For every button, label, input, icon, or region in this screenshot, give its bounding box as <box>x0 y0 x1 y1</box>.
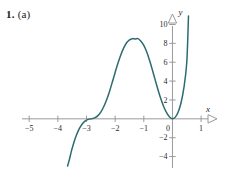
graph-svg: −5−4−3−2−101 −4−2246810 x y <box>0 0 230 171</box>
y-tick-label: −4 <box>159 152 168 161</box>
x-tick-label: −3 <box>82 124 91 133</box>
x-tick-label: −5 <box>25 124 34 133</box>
x-axis-ticks: −5−4−3−2−101 <box>25 116 203 133</box>
x-axis-arrow-icon <box>208 115 217 123</box>
y-tick-label: 6 <box>163 58 167 67</box>
x-tick-label: −4 <box>54 124 63 133</box>
graph-figure: −5−4−3−2−101 −4−2246810 x y <box>0 0 230 171</box>
y-axis-label: y <box>177 7 182 17</box>
x-axis-label: x <box>205 104 210 114</box>
y-tick-label: 10 <box>159 20 167 29</box>
x-tick-label: 1 <box>199 124 203 133</box>
x-tick-label: −1 <box>140 124 149 133</box>
y-tick-label: 2 <box>163 96 167 105</box>
y-tick-label: 4 <box>163 77 167 86</box>
y-tick-label: 8 <box>163 39 167 48</box>
y-axis-arrow-icon <box>168 14 176 23</box>
x-tick-label: 0 <box>166 124 170 133</box>
y-axis-ticks: −4−2246810 <box>159 20 176 161</box>
y-tick-label: −2 <box>159 133 168 142</box>
function-curve <box>68 16 189 166</box>
x-tick-label: −2 <box>111 124 120 133</box>
